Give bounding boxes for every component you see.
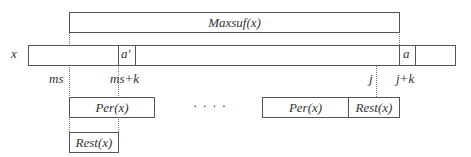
rest-box-right: Rest(x) <box>348 97 400 118</box>
maxsuf-box: Maxsuf(x) <box>69 12 400 33</box>
cell-divider <box>118 45 119 66</box>
position-ms: ms <box>49 71 63 87</box>
per-label: Per(x) <box>95 100 128 116</box>
per-box-left: Per(x) <box>69 97 155 118</box>
rest-box-left: Rest(x) <box>69 132 119 153</box>
ellipsis: · · · · <box>193 98 227 114</box>
position-j: j <box>369 71 373 87</box>
rest-label: Rest(x) <box>356 100 393 116</box>
per-label: Per(x) <box>289 100 322 116</box>
position-j-plus-k: j+k <box>396 71 414 87</box>
position-ms-plus-k: ms+k <box>110 71 139 87</box>
cell-a-prime: a' <box>121 46 130 62</box>
string-x-label: x <box>11 46 17 62</box>
string-x-box <box>28 45 456 66</box>
rest-label: Rest(x) <box>76 135 113 151</box>
per-box-right: Per(x) <box>262 97 349 118</box>
guide-line-j <box>376 65 377 97</box>
cell-divider <box>135 45 136 66</box>
cell-divider <box>415 45 416 66</box>
cell-a: a <box>403 46 410 62</box>
cell-divider <box>399 45 400 66</box>
guide-line-j-plus-k <box>399 32 400 45</box>
maxsuf-label: Maxsuf(x) <box>208 15 261 31</box>
